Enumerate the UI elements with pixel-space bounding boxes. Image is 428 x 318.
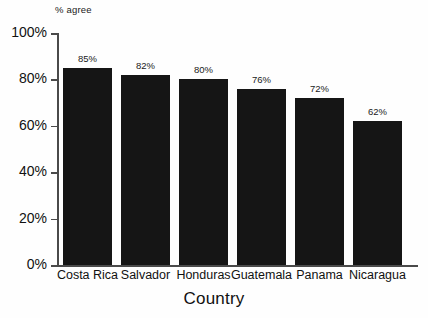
y-axis-tick-mark [51, 126, 58, 128]
bar[interactable] [237, 89, 286, 265]
bar-value-label: 76% [237, 74, 286, 85]
x-axis-line [57, 265, 418, 267]
bar-group[interactable]: 72% [295, 33, 344, 265]
chart-figure: % agree 0%20%40%60%80%100% 85%82%80%76%7… [0, 0, 428, 318]
plot-area: 85%82%80%76%72%62% [58, 33, 418, 265]
x-axis-tick-label: Nicaragua [343, 268, 412, 282]
y-axis-tick-label: 40% [19, 163, 47, 179]
bar-value-label: 62% [353, 106, 402, 117]
y-axis-tick-mark [51, 172, 58, 174]
y-axis-tick-label: 0% [27, 256, 47, 272]
y-axis-tick-label: 80% [19, 70, 47, 86]
bar-group[interactable]: 80% [179, 33, 228, 265]
bar-value-label: 80% [179, 64, 228, 75]
x-axis-title: Country [0, 289, 428, 309]
bar[interactable] [121, 75, 170, 265]
y-axis-tick-mark [51, 265, 58, 267]
bar-value-label: 82% [121, 60, 170, 71]
bar[interactable] [353, 121, 402, 265]
bar-value-label: 72% [295, 83, 344, 94]
y-axis-tick-label: 100% [11, 24, 47, 40]
bar-group[interactable]: 82% [121, 33, 170, 265]
bar-group[interactable]: 76% [237, 33, 286, 265]
y-axis-tick-label: 60% [19, 117, 47, 133]
bar[interactable] [63, 68, 112, 265]
bar[interactable] [179, 79, 228, 265]
bar-value-label: 85% [63, 53, 112, 64]
y-axis-tick-mark [51, 79, 58, 81]
y-axis-tick-mark [51, 33, 58, 35]
bar-group[interactable]: 85% [63, 33, 112, 265]
y-axis-tick-mark [51, 219, 58, 221]
y-axis-tick-label: 20% [19, 210, 47, 226]
bar[interactable] [295, 98, 344, 265]
bar-group[interactable]: 62% [353, 33, 402, 265]
y-axis-label: % agree [55, 4, 92, 15]
